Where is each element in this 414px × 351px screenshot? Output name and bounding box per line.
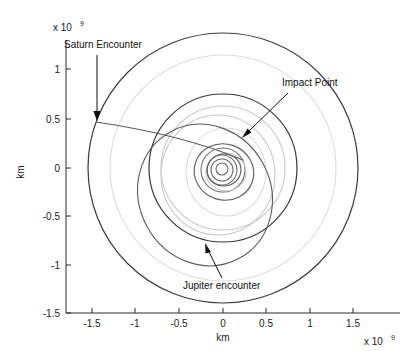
x-tick-label-6: 1.5: [346, 318, 360, 329]
x-tick-label-1: -1: [131, 318, 140, 329]
annotation-label-saturn-encounter: Saturn Encounter: [64, 39, 142, 50]
svg-text:9: 9: [80, 20, 84, 27]
y-tick-label-2: 0: [54, 163, 60, 174]
svg-text:9: 9: [391, 334, 395, 341]
x-tick-label-3: 0: [220, 318, 226, 329]
y-tick-label-1: 0.5: [46, 114, 60, 125]
x-axis-title: km: [216, 332, 229, 343]
svg-text:x 10: x 10: [364, 336, 383, 347]
y-tick-label-3: -0.5: [43, 211, 61, 222]
y-tick-label-4: -1: [51, 260, 60, 271]
x-tick-label-2: -0.5: [170, 318, 188, 329]
plot-background: [0, 0, 414, 351]
y-axis-title: km: [15, 165, 26, 178]
x-tick-label-4: 0.5: [259, 318, 273, 329]
x-tick-label-5: 1: [307, 318, 313, 329]
y-tick-label-5: -1.5: [43, 308, 61, 319]
svg-text:x 10: x 10: [53, 22, 72, 33]
x-tick-label-0: -1.5: [83, 318, 101, 329]
y-tick-label-0: 1: [54, 64, 60, 75]
figure-root: 1 0.5 0 -0.5 -1 -1.5 -1.5 -1 -0.5 0 0.5 …: [0, 0, 414, 351]
orbital-plot: 1 0.5 0 -0.5 -1 -1.5 -1.5 -1 -0.5 0 0.5 …: [0, 0, 414, 351]
annotation-label-impact-point: Impact Point: [282, 77, 338, 88]
annotation-label-jupiter-encounter: Jupiter encounter: [183, 280, 261, 291]
